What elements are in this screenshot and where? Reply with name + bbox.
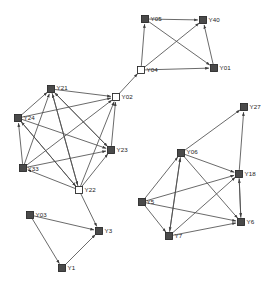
network-graph-canvas: Y05Y40Y04Y01Y21Y02Y24Y23Y33Y22Y03Y3Y1Y27… [0,0,275,287]
graph-edge [204,25,213,64]
node-marker[interactable] [139,199,146,206]
graph-edge [28,170,75,189]
graph-edge [27,151,106,167]
network-graph-svg: Y05Y40Y04Y01Y21Y02Y24Y23Y33Y22Y03Y3Y1Y27… [0,0,275,287]
graph-edge [184,156,238,218]
node-label: Y18 [245,170,257,177]
node-label: Y06 [187,148,199,155]
node-marker[interactable] [96,228,103,235]
graph-edge [173,223,236,235]
graph-node-y03[interactable]: Y03 [27,211,48,219]
node-label: Y23 [117,146,129,153]
node-marker[interactable] [76,187,83,194]
graph-edge [82,154,108,187]
graph-edge [239,112,243,170]
graph-edge [184,110,240,151]
node-marker[interactable] [27,212,34,219]
node-marker[interactable] [138,67,145,74]
graph-node-y21[interactable]: Y21 [48,84,69,93]
graph-node-y23[interactable]: Y23 [108,146,129,154]
node-marker[interactable] [238,219,245,226]
graph-node-y1[interactable]: Y1 [59,264,76,272]
node-label: Y40 [209,16,221,23]
node-label: Y27 [250,103,262,110]
node-marker[interactable] [166,233,173,240]
graph-edge [239,178,241,217]
node-marker[interactable] [108,147,115,154]
graph-edge [32,219,59,264]
node-marker[interactable] [142,16,149,23]
node-label: Y24 [24,114,36,121]
graph-edge [22,119,106,148]
node-marker[interactable] [59,265,66,272]
graph-edge [34,216,94,230]
node-label: Y22 [85,186,97,193]
graph-edge [148,21,210,65]
node-label: Y04 [147,66,159,73]
graph-node-y01[interactable]: Y01 [211,64,232,72]
graph-node-y02[interactable]: Y02 [113,93,134,101]
node-label: Y6 [247,218,255,225]
node-label: Y5 [147,198,155,205]
graph-edge [145,157,178,199]
node-marker[interactable] [236,171,243,178]
node-marker[interactable] [48,86,55,93]
graph-node-y04[interactable]: Y04 [138,66,159,74]
node-marker[interactable] [241,104,248,111]
node-marker[interactable] [211,65,218,72]
graph-edge [21,121,76,186]
node-label: Y02 [122,93,134,100]
graph-edge [170,158,181,232]
node-label: Y33 [28,165,40,172]
graph-edge [24,94,49,164]
node-label: Y3 [105,227,113,234]
graph-edge [22,98,111,117]
graph-edge [145,205,166,232]
graph-node-y05[interactable]: Y05 [142,15,163,23]
graph-edge [146,203,236,221]
graph-node-y33[interactable]: Y33 [20,165,40,173]
node-marker[interactable] [20,165,27,172]
graph-edge [119,74,138,94]
node-label: Y21 [57,84,69,91]
graph-node-y5[interactable]: Y5 [139,198,155,206]
graph-edge [81,102,115,186]
graph-edge [144,23,199,67]
graph-edge [146,175,234,200]
node-marker[interactable] [15,115,22,122]
graph-node-y7[interactable]: Y7 [166,232,183,240]
node-marker[interactable] [113,94,120,101]
graph-edge [185,154,234,172]
graph-node-y18[interactable]: Y18 [236,170,257,178]
graph-edge [81,194,97,227]
node-marker[interactable] [200,17,207,24]
graph-node-y6[interactable]: Y6 [238,218,255,226]
graph-node-y27[interactable]: Y27 [241,103,262,111]
graph-edge [141,24,144,66]
graph-node-y3[interactable]: Y3 [96,227,113,235]
graph-node-y22[interactable]: Y22 [76,186,97,194]
graph-node-y40[interactable]: Y40 [200,16,221,24]
graph-edge [111,102,115,146]
node-label: Y05 [151,15,163,22]
node-label: Y1 [68,264,76,271]
graph-edge [19,123,23,164]
graph-node-y24[interactable]: Y24 [15,114,36,122]
graph-edge [52,93,78,185]
graph-edges-layer [19,19,244,265]
graph-edge [65,235,95,265]
node-marker[interactable] [178,150,185,157]
node-label: Y7 [175,232,183,239]
node-label: Y01 [220,64,232,71]
node-label: Y03 [36,211,48,218]
graph-nodes-layer: Y05Y40Y04Y01Y21Y02Y24Y23Y33Y22Y03Y3Y1Y27… [15,15,262,272]
